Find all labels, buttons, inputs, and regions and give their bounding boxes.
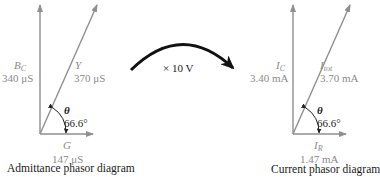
y-value: 370 μS: [74, 72, 105, 84]
current-caption: Current phasor diagram: [271, 163, 380, 175]
bc-value: 340 μS: [2, 72, 33, 84]
theta-value: 66.6°: [317, 117, 341, 129]
y-label: Y: [75, 59, 81, 71]
theta-value: 66.6°: [64, 117, 88, 129]
itot-value: 3.70 mA: [320, 72, 359, 84]
transform-label: × 10 V: [163, 62, 193, 74]
admittance-caption: Admittance phasor diagram: [7, 162, 135, 174]
theta-symbol: θ: [317, 104, 323, 116]
g-label: G: [63, 139, 71, 151]
ic-value: 3.40 mA: [250, 72, 289, 84]
theta-symbol: θ: [64, 104, 70, 116]
